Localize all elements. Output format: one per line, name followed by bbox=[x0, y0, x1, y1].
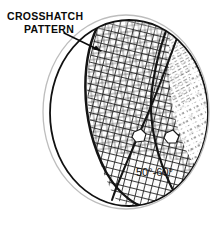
angle-label-text: 50°-60° bbox=[136, 166, 173, 178]
callout-line2: PATTERN bbox=[24, 23, 74, 35]
crosshatch-pattern-figure: 50°-60° CROSSHATCH PATTERN bbox=[0, 0, 224, 225]
callout-line1: CROSSHATCH bbox=[7, 10, 83, 22]
angle-label: 50°-60° bbox=[136, 166, 173, 178]
